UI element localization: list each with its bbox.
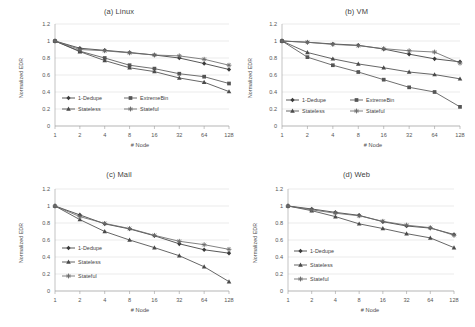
svg-text:32: 32 xyxy=(176,297,182,303)
svg-text:1: 1 xyxy=(280,203,283,209)
legend-entry: 1-Dedupe xyxy=(62,245,102,251)
svg-text:0.2: 0.2 xyxy=(275,271,283,277)
svg-text:0.2: 0.2 xyxy=(42,271,50,277)
legend-entry: 1-Dedupe xyxy=(62,95,102,101)
svg-text:0.8: 0.8 xyxy=(42,220,50,226)
svg-text:1: 1 xyxy=(286,297,289,303)
svg-text:8: 8 xyxy=(357,132,360,138)
svg-text:1: 1 xyxy=(47,38,50,44)
svg-text:1-Dedupe: 1-Dedupe xyxy=(78,245,102,251)
legend-entry: Stateless xyxy=(62,259,101,265)
svg-text:Stateful: Stateful xyxy=(310,276,329,282)
svg-text:0: 0 xyxy=(47,123,50,129)
svg-text:1: 1 xyxy=(53,132,56,138)
svg-text:4: 4 xyxy=(103,132,106,138)
svg-text:32: 32 xyxy=(176,132,182,138)
svg-text:1: 1 xyxy=(53,297,56,303)
svg-text:8: 8 xyxy=(358,297,361,303)
plot-area-mail: 00.20.40.60.811.212481632641281-DedupeSt… xyxy=(0,163,238,327)
svg-text:8: 8 xyxy=(128,132,131,138)
svg-text:0.8: 0.8 xyxy=(269,55,277,61)
chart-panel-vm: (b) VM Normalized EDR # Node 00.20.40.60… xyxy=(238,0,475,163)
svg-text:32: 32 xyxy=(406,132,412,138)
svg-text:1.2: 1.2 xyxy=(42,186,50,192)
svg-text:0: 0 xyxy=(274,123,277,129)
svg-text:128: 128 xyxy=(224,297,233,303)
svg-text:0.4: 0.4 xyxy=(269,89,277,95)
svg-text:2: 2 xyxy=(306,132,309,138)
svg-text:1.2: 1.2 xyxy=(42,21,50,27)
legend-entry: Stateful xyxy=(124,106,159,112)
svg-text:16: 16 xyxy=(151,132,157,138)
svg-text:1.2: 1.2 xyxy=(275,186,283,192)
legend-entry: Stateless xyxy=(294,262,333,268)
svg-text:128: 128 xyxy=(455,132,464,138)
svg-text:128: 128 xyxy=(449,297,458,303)
plot-area-web: 00.20.40.60.811.212481632641281-DedupeSt… xyxy=(238,163,475,327)
svg-text:0.4: 0.4 xyxy=(275,254,283,260)
svg-text:4: 4 xyxy=(103,297,106,303)
svg-text:4: 4 xyxy=(331,132,334,138)
svg-text:4: 4 xyxy=(334,297,337,303)
legend-entry: Stateless xyxy=(62,106,101,112)
svg-text:32: 32 xyxy=(403,297,409,303)
legend-entry: ExtremeBin xyxy=(124,95,168,101)
legend-entry: Stateful xyxy=(294,276,329,282)
svg-text:0.6: 0.6 xyxy=(42,237,50,243)
plot-area-linux: 00.20.40.60.811.212481632641281-DedupeEx… xyxy=(0,0,238,163)
svg-text:0.2: 0.2 xyxy=(42,106,50,112)
svg-text:16: 16 xyxy=(151,297,157,303)
svg-text:16: 16 xyxy=(381,132,387,138)
chart-panel-mail: (c) Mail Normalized EDR # Node 00.20.40.… xyxy=(0,163,238,327)
svg-text:ExtremeBin: ExtremeBin xyxy=(140,95,168,101)
svg-text:0.6: 0.6 xyxy=(42,72,50,78)
svg-text:1-Dedupe: 1-Dedupe xyxy=(78,95,102,101)
svg-text:1-Dedupe: 1-Dedupe xyxy=(310,248,334,254)
svg-text:Stateful: Stateful xyxy=(78,273,97,279)
chart-panel-web: (d) Web Normalized EDR # Node 00.20.40.6… xyxy=(238,163,475,327)
svg-text:2: 2 xyxy=(310,297,313,303)
svg-text:0.8: 0.8 xyxy=(42,55,50,61)
svg-text:1: 1 xyxy=(274,38,277,44)
svg-text:0.4: 0.4 xyxy=(42,254,50,260)
svg-text:0: 0 xyxy=(280,288,283,294)
svg-text:Stateful: Stateful xyxy=(366,108,385,114)
svg-text:Stateless: Stateless xyxy=(78,259,101,265)
svg-text:64: 64 xyxy=(201,297,207,303)
svg-text:0.2: 0.2 xyxy=(269,106,277,112)
figure-grid: (a) Linux Normalized EDR # Node 00.20.40… xyxy=(0,0,475,327)
svg-text:2: 2 xyxy=(78,297,81,303)
svg-text:Stateful: Stateful xyxy=(140,106,159,112)
svg-text:64: 64 xyxy=(427,297,433,303)
svg-text:Stateless: Stateless xyxy=(302,108,325,114)
plot-area-vm: 00.20.40.60.811.212481632641281-DedupeEx… xyxy=(238,0,475,163)
chart-panel-linux: (a) Linux Normalized EDR # Node 00.20.40… xyxy=(0,0,238,163)
svg-text:ExtremeBin: ExtremeBin xyxy=(366,97,394,103)
svg-text:8: 8 xyxy=(128,297,131,303)
svg-text:Stateless: Stateless xyxy=(310,262,333,268)
svg-text:Stateless: Stateless xyxy=(78,106,101,112)
svg-text:0.8: 0.8 xyxy=(275,220,283,226)
svg-text:0.6: 0.6 xyxy=(275,237,283,243)
svg-text:1: 1 xyxy=(280,132,283,138)
svg-text:1: 1 xyxy=(47,203,50,209)
svg-text:2: 2 xyxy=(78,132,81,138)
svg-text:16: 16 xyxy=(380,297,386,303)
svg-text:64: 64 xyxy=(431,132,437,138)
svg-text:1.2: 1.2 xyxy=(269,21,277,27)
svg-text:128: 128 xyxy=(224,132,233,138)
svg-text:64: 64 xyxy=(201,132,207,138)
legend-entry: ExtremeBin xyxy=(350,97,394,103)
legend-entry: 1-Dedupe xyxy=(294,248,334,254)
svg-text:1-Dedupe: 1-Dedupe xyxy=(302,97,326,103)
svg-text:0.6: 0.6 xyxy=(269,72,277,78)
legend-entry: 1-Dedupe xyxy=(286,97,326,103)
svg-text:0.4: 0.4 xyxy=(42,89,50,95)
svg-text:0: 0 xyxy=(47,288,50,294)
